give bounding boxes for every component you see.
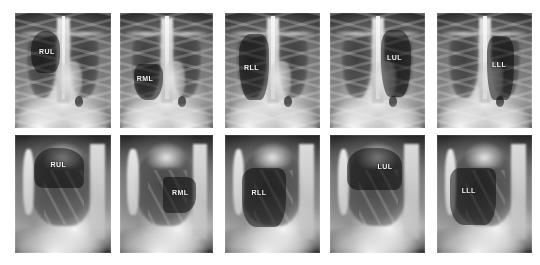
diaphragm [330, 94, 425, 129]
xray-panel-rml-lateral[interactable]: RML [120, 135, 213, 253]
diaphragm [330, 220, 425, 253]
xray-panel-rul-lateral[interactable]: RUL [15, 135, 111, 253]
diaphragm [15, 220, 111, 253]
lobe-highlight-rul [34, 148, 84, 188]
lobe-label-rll-lateral: RLL [252, 189, 267, 196]
lobe-label-rml-frontal: RML [137, 75, 153, 82]
sternum [23, 149, 35, 215]
diaphragm [225, 94, 320, 129]
radiograph-image [15, 13, 111, 128]
lobe-highlight-rll [242, 168, 286, 227]
lobe-label-rul-lateral: RUL [51, 161, 67, 168]
diaphragm [437, 220, 532, 253]
diaphragm [437, 94, 532, 129]
diaphragm [15, 94, 111, 129]
xray-panel-lll-lateral[interactable]: LLL [437, 135, 532, 253]
xray-panel-rll-frontal[interactable]: RLL [225, 13, 320, 128]
lobe-label-lll-lateral: LLL [462, 187, 476, 194]
lobe-label-lll-frontal: LLL [492, 61, 506, 68]
lobe-label-lul-lateral: LUL [378, 163, 393, 170]
lobe-highlight-lul [347, 148, 402, 190]
radiograph-image [437, 13, 532, 128]
lobe-label-rml-lateral: RML [172, 189, 188, 196]
diaphragm [120, 220, 213, 253]
diaphragm [120, 94, 213, 129]
scapula-shadow [252, 142, 294, 168]
lobe-label-lul-frontal: LUL [387, 54, 402, 61]
lobe-highlight-lll [450, 168, 496, 225]
xray-panel-rml-frontal[interactable]: RML [120, 13, 213, 128]
sternum [127, 149, 138, 215]
xray-panel-lll-frontal[interactable]: LLL [437, 13, 532, 128]
radiograph-image [330, 13, 425, 128]
lobe-label-rul-frontal: RUL [39, 48, 55, 55]
lobe-highlight-lul [381, 30, 410, 97]
xray-panel-rll-lateral[interactable]: RLL [225, 135, 320, 253]
lobe-label-rll-frontal: RLL [244, 64, 259, 71]
xray-panel-rul-frontal[interactable]: RUL [15, 13, 111, 128]
xray-panel-lul-lateral[interactable]: LUL [330, 135, 425, 253]
xray-panel-lul-frontal[interactable]: LUL [330, 13, 425, 128]
scapula-shadow [464, 142, 506, 168]
lung-lobe-figure: RULRMLRLLLULLLLRULRMLRLLLULLLL [0, 0, 540, 265]
scapula-shadow [146, 142, 187, 168]
